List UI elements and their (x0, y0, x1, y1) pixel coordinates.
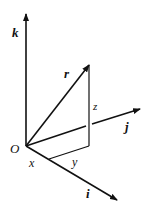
y-label: y (71, 155, 78, 169)
y-component-line (49, 146, 89, 159)
x-label: x (28, 156, 35, 170)
r-label: r (64, 66, 70, 81)
i-label: i (86, 186, 90, 201)
j-label: j (123, 119, 129, 134)
j-axis-segment-2 (92, 109, 140, 124)
j-axis-segment-1 (26, 126, 86, 146)
vector-diagram: k r z j O x y i (0, 0, 147, 213)
z-label: z (92, 100, 98, 112)
origin-label: O (10, 141, 20, 156)
k-label: k (12, 25, 19, 40)
r-vector (26, 65, 89, 146)
